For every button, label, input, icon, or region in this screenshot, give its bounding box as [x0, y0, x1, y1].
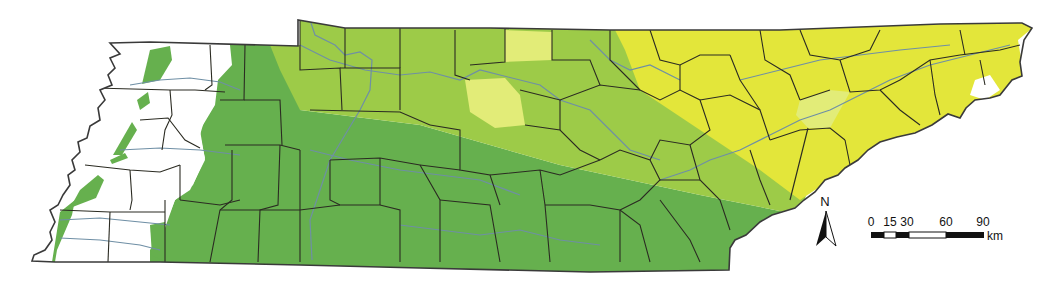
scale-tick-60: 60	[939, 215, 953, 229]
scale-tick-30: 30	[900, 215, 914, 229]
north-arrow: N	[816, 194, 836, 246]
north-label: N	[820, 194, 829, 209]
scale-tick-90: 90	[976, 215, 990, 229]
scale-tick-15: 15	[883, 215, 897, 229]
scale-bar: 0 15 30 60 90 km	[868, 215, 1003, 243]
tennessee-map: N 0 15 30 60 90 km	[0, 0, 1045, 281]
scale-tick-0: 0	[868, 215, 875, 229]
north-arrow-icon	[816, 211, 826, 246]
scale-unit: km	[987, 229, 1003, 243]
zone-pale-yellow	[505, 30, 552, 62]
